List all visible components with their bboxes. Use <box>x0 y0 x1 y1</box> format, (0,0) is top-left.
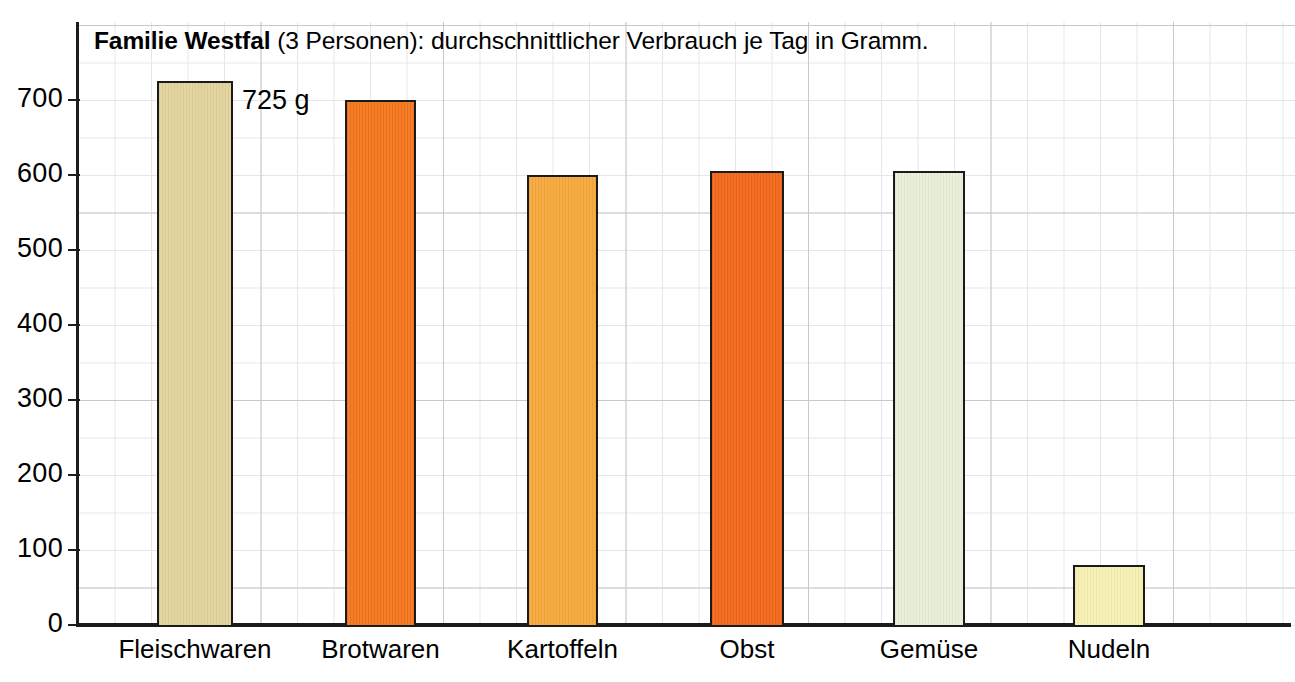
y-axis-tick-label: 500 <box>17 233 63 264</box>
y-axis-tick-label: 400 <box>17 308 63 339</box>
y-axis-tick <box>68 174 80 176</box>
bar-texture <box>712 173 782 625</box>
chart-title-rest: (3 Personen): durchschnittlicher Verbrau… <box>270 27 928 54</box>
y-axis-tick <box>68 399 80 401</box>
y-axis-tick <box>68 324 80 326</box>
y-axis-tick-label: 300 <box>17 383 63 414</box>
bar-value-annotation: 725 g <box>242 85 310 116</box>
bar-texture <box>159 83 231 625</box>
bar-kartoffeln <box>527 175 598 627</box>
chart-title: Familie Westfal (3 Personen): durchschni… <box>94 27 929 55</box>
y-axis-tick <box>68 549 80 551</box>
y-axis-tick <box>68 249 80 251</box>
bar-texture <box>347 102 414 625</box>
bar-brotwaren <box>345 100 416 627</box>
bar-obst <box>710 171 784 627</box>
y-axis-tick-label: 100 <box>17 533 63 564</box>
y-axis-tick-label: 600 <box>17 158 63 189</box>
bar-texture <box>529 177 596 625</box>
y-axis-tick-label: 200 <box>17 458 63 489</box>
category-label-nudeln: Nudeln <box>979 634 1239 665</box>
y-axis-tick-label: 0 <box>48 608 63 639</box>
y-axis-tick <box>68 99 80 101</box>
bar-chart: Familie Westfal (3 Personen): durchschni… <box>0 0 1295 682</box>
chart-title-bold: Familie Westfal <box>94 27 270 54</box>
grid-mask-top <box>0 0 1295 22</box>
bar-texture <box>895 173 963 625</box>
y-axis-tick <box>68 474 80 476</box>
y-axis-tick-label: 700 <box>17 83 63 114</box>
bar-nudeln <box>1073 565 1145 627</box>
bar-gem-se <box>893 171 965 627</box>
y-axis-tick <box>68 624 80 626</box>
bar-texture <box>1075 567 1143 625</box>
bar-fleischwaren <box>157 81 233 627</box>
